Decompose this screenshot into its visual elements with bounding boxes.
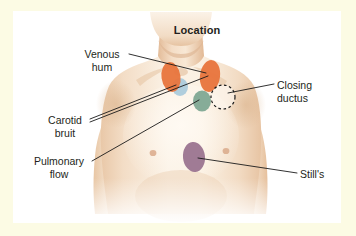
callout-label-stills: Still's xyxy=(300,168,346,181)
callout-label-venous-hum: Venous hum xyxy=(74,48,130,73)
callout-label-closing-ductus: Closing ductus xyxy=(277,79,339,104)
marker-pulmonary-flow[interactable] xyxy=(193,91,211,112)
right-nipple xyxy=(223,148,230,154)
figure-root: Location Venous hum Carotid bruit Pulmon… xyxy=(0,0,356,236)
infant-body xyxy=(80,12,280,226)
right-shoulder-shade xyxy=(226,81,266,129)
callout-label-pulmonary-flow: Pulmonary flow xyxy=(23,155,95,180)
marker-closing-ductus[interactable] xyxy=(211,85,235,109)
page-title: Location xyxy=(132,24,262,37)
left-nipple xyxy=(150,150,157,156)
bottom-fade xyxy=(80,178,280,226)
left-shoulder-shade xyxy=(96,80,136,128)
callout-label-carotid-bruit: Carotid bruit xyxy=(37,114,93,139)
